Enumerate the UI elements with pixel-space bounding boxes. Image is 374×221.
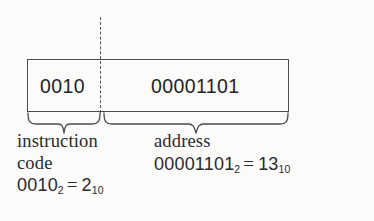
instruction-code-brace — [27, 113, 101, 133]
address-bits: 00001101 — [151, 75, 240, 97]
address-binary-base: 2 — [234, 163, 240, 175]
instruction-word-diagram: 0010 00001101 instruction code 00102=210… — [0, 0, 374, 221]
instruction-code-binary-base: 2 — [58, 184, 64, 196]
address-equation: 000011012=1310 — [154, 153, 290, 177]
address-decimal-base: 10 — [279, 163, 291, 175]
instruction-code-caption-line1: instruction — [17, 131, 104, 153]
instruction-code-caption: instruction code 00102=210 — [17, 131, 104, 198]
address-decimal-value: 13 — [258, 154, 278, 174]
instruction-code-decimal-value: 2 — [82, 175, 92, 195]
address-brace — [103, 113, 289, 133]
instruction-code-binary-value: 0010 — [17, 175, 58, 195]
instruction-code-equation: 00102=210 — [17, 174, 104, 198]
address-caption-line1: address — [154, 131, 290, 153]
address-equals-sign: = — [240, 153, 258, 174]
instruction-code-equals-sign: = — [64, 174, 82, 195]
instruction-code-bits: 0010 — [40, 75, 85, 97]
instruction-code-decimal-base: 10 — [92, 184, 104, 196]
address-binary-value: 00001101 — [154, 154, 234, 174]
instruction-code-caption-line2: code — [17, 153, 104, 175]
address-caption: address 000011012=1310 — [154, 131, 290, 177]
